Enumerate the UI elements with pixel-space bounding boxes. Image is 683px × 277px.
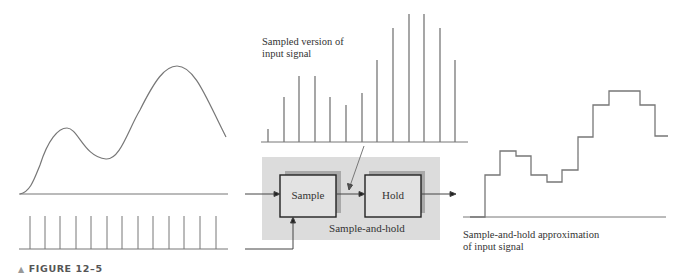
sampled-label: Sampled version ofinput signal <box>262 36 344 60</box>
hold-output <box>463 91 668 217</box>
sample-block-label: Sample <box>280 189 336 201</box>
hold-block-label: Hold <box>365 189 421 201</box>
triangle-icon: ▲ <box>18 265 25 274</box>
sample-and-hold-label: Sample-and-hold <box>312 222 422 234</box>
approximation-label: Sample-and-hold approximationof input si… <box>463 229 599 253</box>
sampling-pulses <box>19 216 228 249</box>
sampled-signal <box>261 14 468 142</box>
input-signal <box>19 66 228 194</box>
figure-caption: ▲FIGURE 12–5 <box>18 263 103 274</box>
